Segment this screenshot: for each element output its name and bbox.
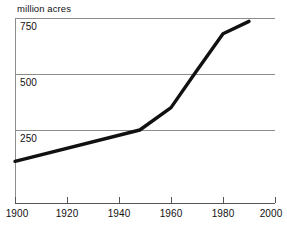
series-layer	[0, 0, 287, 236]
series-line-million-acres	[15, 21, 249, 161]
line-chart: million acres 750 500 250 1900 1920 1940…	[0, 0, 287, 236]
plot-area: 750 500 250 1900 1920 1940 1960 1980 200…	[0, 0, 287, 236]
